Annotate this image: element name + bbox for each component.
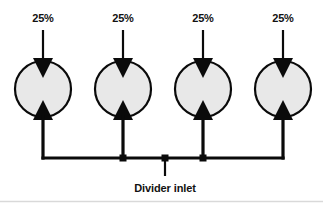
divider-element-4: 25% [255,12,311,160]
diagram-canvas: 25% 25% 25% 25% [0,0,323,205]
flow-divider-diagram: 25% 25% 25% 25% [0,0,323,205]
percent-label-3: 25% [192,12,214,24]
divider-inlet-label: Divider inlet [134,182,196,194]
percent-label-4: 25% [272,12,294,24]
divider-element-2: 25% [95,12,151,160]
percent-label-2: 25% [112,12,134,24]
junction-dot-1 [120,155,127,162]
divider-element-1: 25% [15,12,71,160]
divider-element-3: 25% [175,12,231,160]
percent-label-1: 25% [32,12,54,24]
junction-dot-3 [200,155,207,162]
